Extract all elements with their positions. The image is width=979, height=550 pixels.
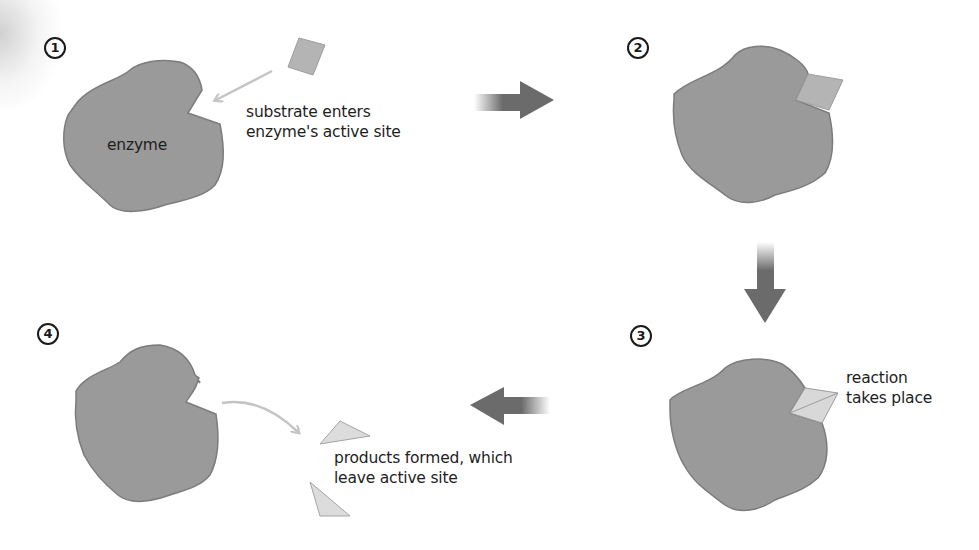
step2-enzyme xyxy=(673,46,832,202)
step1-caption-line2: enzyme's active site xyxy=(246,123,401,142)
step-4-number: 4 xyxy=(37,323,59,345)
step3-enzyme xyxy=(670,359,827,510)
step1-caption-line1: substrate enters xyxy=(246,103,371,122)
step3-caption-line2: takes place xyxy=(846,389,932,408)
step4-caption-line1: products formed, which xyxy=(334,449,513,468)
step4-caption-line2: leave active site xyxy=(334,469,458,488)
step-3-number: 3 xyxy=(630,325,652,347)
step1-substrate xyxy=(288,38,325,75)
flow-arrow-down-icon xyxy=(744,242,786,323)
flow-arrow-left-icon xyxy=(470,387,550,425)
step-2-number: 2 xyxy=(627,37,649,59)
step4-enzyme xyxy=(75,345,218,501)
step3-caption-line1: reaction xyxy=(846,369,908,388)
step-1-number: 1 xyxy=(44,37,66,59)
enzyme-label: enzyme xyxy=(107,136,167,155)
flow-arrow-right-icon xyxy=(474,81,554,119)
substrate-entry-arrow-icon xyxy=(216,71,272,100)
product-exit-arrow-icon xyxy=(222,402,298,432)
